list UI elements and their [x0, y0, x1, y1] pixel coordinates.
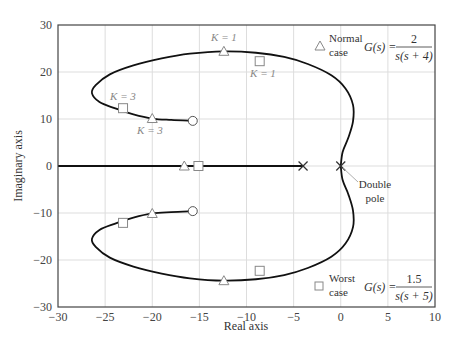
double-pole-label-line1: Double: [359, 178, 392, 190]
legend-normal-line1: Normal: [329, 32, 363, 44]
y-axis-label: Imaginary axis: [11, 130, 25, 202]
y-tick-label: −30: [33, 300, 52, 314]
zero-circle-icon: [188, 116, 197, 125]
tick-labels: −30−25−20−15−10−50510−30−20−100102030: [33, 18, 441, 324]
legend-normal-den: s(s + 4): [395, 49, 432, 63]
zero-circle-icon: [188, 207, 197, 216]
legend-worst-line2: case: [329, 286, 348, 298]
root-locus-chart: −30−25−20−15−10−50510−30−20−100102030 Re…: [0, 0, 462, 350]
square-marker-icon: [119, 218, 128, 227]
x-tick-label: 0: [338, 310, 344, 324]
legend-worst-case: Worst case G(s) = 1.5 s(s + 5): [315, 272, 433, 303]
y-tick-label: −10: [33, 206, 52, 220]
y-tick-label: 10: [40, 112, 52, 126]
x-tick-label: −20: [143, 310, 162, 324]
square-marker-icon: [255, 266, 264, 275]
y-tick-label: −20: [33, 253, 52, 267]
triangle-icon: [315, 41, 325, 50]
square-marker-icon: [119, 104, 128, 113]
double-pole-label-line2: pole: [366, 192, 385, 204]
square-marker-icon: [194, 162, 203, 171]
annotation-k3-triangle: K = 3: [136, 124, 163, 136]
legend-worst-gs: G(s) =: [364, 280, 396, 294]
x-axis-label: Real axis: [224, 319, 269, 333]
x-tick-label: −15: [190, 310, 209, 324]
annotation-k3-square: K = 3: [109, 90, 136, 102]
legend-normal-case: Normal case G(s) = 2 s(s + 4): [315, 32, 433, 63]
x-tick-label: 10: [429, 310, 441, 324]
root-locus-lower-branch: [92, 166, 354, 281]
x-tick-label: −25: [96, 310, 115, 324]
x-tick-label: 5: [385, 310, 391, 324]
legend-normal-line2: case: [329, 46, 348, 58]
annotation-k1-triangle: K = 1: [210, 31, 237, 43]
legend-normal-gs: G(s) =: [364, 40, 396, 54]
y-tick-label: 30: [40, 18, 52, 32]
y-tick-label: 20: [40, 65, 52, 79]
y-tick-label: 0: [46, 159, 52, 173]
square-icon: [315, 282, 323, 290]
root-locus-upper-branch: [92, 51, 354, 166]
double-pole-pointer: [343, 168, 358, 182]
legend-normal-num: 2: [411, 32, 417, 46]
legend-worst-line1: Worst: [329, 272, 355, 284]
legend-worst-num: 1.5: [407, 272, 422, 286]
annotation-k1-square: K = 1: [249, 67, 276, 79]
square-marker-icon: [255, 57, 264, 66]
x-tick-label: −5: [287, 310, 300, 324]
legend-worst-den: s(s + 5): [395, 289, 432, 303]
